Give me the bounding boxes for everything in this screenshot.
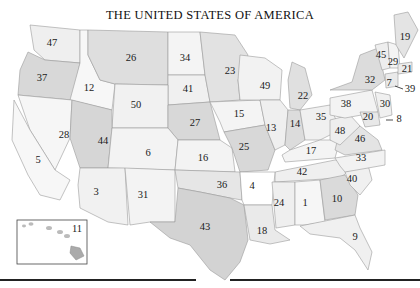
state-label: 1 — [302, 197, 307, 208]
state-label: 7 — [386, 77, 391, 88]
us-map: 4737122634415027231549222854461625131435… — [0, 0, 420, 288]
state-label: 24 — [274, 197, 285, 208]
state-label: 37 — [37, 72, 48, 83]
state-label: 5 — [35, 154, 40, 165]
state-44[interactable] — [70, 100, 112, 168]
state-label: 8 — [396, 113, 401, 124]
state-label: 32 — [365, 74, 376, 85]
state-label: 40 — [347, 173, 358, 184]
state-label: 15 — [234, 108, 245, 119]
state-label: 39 — [405, 83, 416, 94]
state-22[interactable] — [288, 62, 312, 110]
state-label: 11 — [72, 223, 82, 234]
state-label: 46 — [355, 133, 366, 144]
state-label: 17 — [306, 145, 317, 156]
state-label: 12 — [84, 82, 95, 93]
state-label: 48 — [335, 125, 346, 136]
state-3[interactable] — [78, 168, 128, 225]
state-31[interactable] — [125, 168, 175, 225]
state-label: 41 — [183, 83, 194, 94]
leader-line — [395, 86, 403, 89]
state-1[interactable] — [295, 180, 325, 225]
state-label: 43 — [200, 221, 211, 232]
state-label: 27 — [190, 117, 201, 128]
island-shape — [64, 234, 70, 238]
state-label: 16 — [198, 152, 209, 163]
bottom-rule-right — [230, 279, 420, 281]
bottom-rule-left — [0, 279, 196, 281]
state-6[interactable] — [108, 128, 178, 170]
state-label: 30 — [380, 98, 391, 109]
state-4[interactable] — [240, 172, 275, 205]
state-label: 21 — [402, 63, 413, 74]
state-label: 28 — [59, 129, 70, 140]
state-label: 22 — [298, 90, 309, 101]
island-shape — [46, 226, 52, 230]
state-label: 18 — [257, 225, 268, 236]
state-label: 29 — [388, 56, 399, 67]
island-shape — [57, 230, 63, 234]
state-label: 19 — [400, 31, 411, 42]
state-label: 45 — [376, 49, 387, 60]
state-label: 38 — [341, 98, 352, 109]
state-label: 20 — [363, 111, 374, 122]
state-label: 49 — [260, 80, 271, 91]
state-label: 4 — [249, 180, 255, 191]
state-label: 50 — [131, 99, 142, 110]
state-label: 9 — [352, 231, 357, 242]
state-label: 47 — [47, 37, 58, 48]
state-label: 35 — [316, 111, 327, 122]
state-label: 14 — [290, 118, 301, 129]
state-label: 23 — [225, 65, 236, 76]
state-label: 31 — [138, 189, 149, 200]
state-label: 13 — [266, 122, 277, 133]
state-label: 3 — [93, 186, 98, 197]
state-label: 25 — [239, 141, 250, 152]
state-label: 36 — [217, 179, 228, 190]
hawaii-inset: 11 — [17, 220, 87, 264]
state-label: 34 — [180, 52, 191, 63]
state-label: 26 — [126, 52, 137, 63]
state-label: 44 — [98, 135, 109, 146]
island-shape — [29, 222, 34, 226]
state-label: 10 — [332, 193, 343, 204]
state-49[interactable] — [238, 55, 282, 100]
state-label: 33 — [356, 152, 367, 163]
island-shape — [22, 225, 26, 228]
state-label: 42 — [297, 166, 308, 177]
state-label: 6 — [145, 147, 150, 158]
